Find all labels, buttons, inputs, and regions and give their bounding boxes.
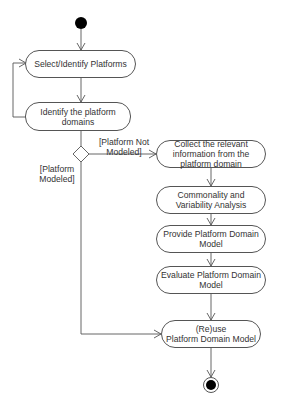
action-label: Evaluate Platform Domain Model xyxy=(161,270,261,290)
edge-loop-back xyxy=(13,63,26,117)
guard-line: Modeled] xyxy=(37,174,77,184)
action-identify-platform-domains[interactable]: Identify the platform domains xyxy=(25,102,131,131)
action-label-line1: (Re)use xyxy=(196,324,227,334)
action-reuse-platform-domain-model[interactable]: (Re)use Platform Domain Model xyxy=(161,320,261,348)
final-node-core-icon xyxy=(206,380,216,390)
initial-node xyxy=(75,17,87,29)
action-label: Commonality and Variability Analysis xyxy=(161,190,261,210)
guard-platform-not-modeled: [Platform Not Modeled] xyxy=(96,137,152,157)
action-collect-information[interactable]: Collect the relevant information from th… xyxy=(156,140,266,168)
action-provide-platform-domain-model[interactable]: Provide Platform Domain Model xyxy=(156,225,266,253)
decision-diamond-icon xyxy=(73,146,89,162)
guard-line: [Platform xyxy=(37,164,77,174)
action-label: Identify the platform domains xyxy=(30,107,126,127)
edge-decision-to-reuse xyxy=(81,162,161,334)
guard-platform-modeled: [Platform Modeled] xyxy=(37,164,77,184)
action-label-line2: Platform Domain Model xyxy=(166,334,256,344)
action-commonality-variability-analysis[interactable]: Commonality and Variability Analysis xyxy=(156,186,266,214)
action-select-identify-platforms[interactable]: Select/Identify Platforms xyxy=(25,50,136,78)
action-label: Select/Identify Platforms xyxy=(34,59,127,69)
final-node xyxy=(203,377,219,393)
action-label: Collect the relevant information from th… xyxy=(161,139,261,169)
action-label: Provide Platform Domain Model xyxy=(161,229,261,249)
guard-line: Modeled] xyxy=(96,147,152,157)
guard-line: [Platform Not xyxy=(96,137,152,147)
action-evaluate-platform-domain-model[interactable]: Evaluate Platform Domain Model xyxy=(156,266,266,294)
